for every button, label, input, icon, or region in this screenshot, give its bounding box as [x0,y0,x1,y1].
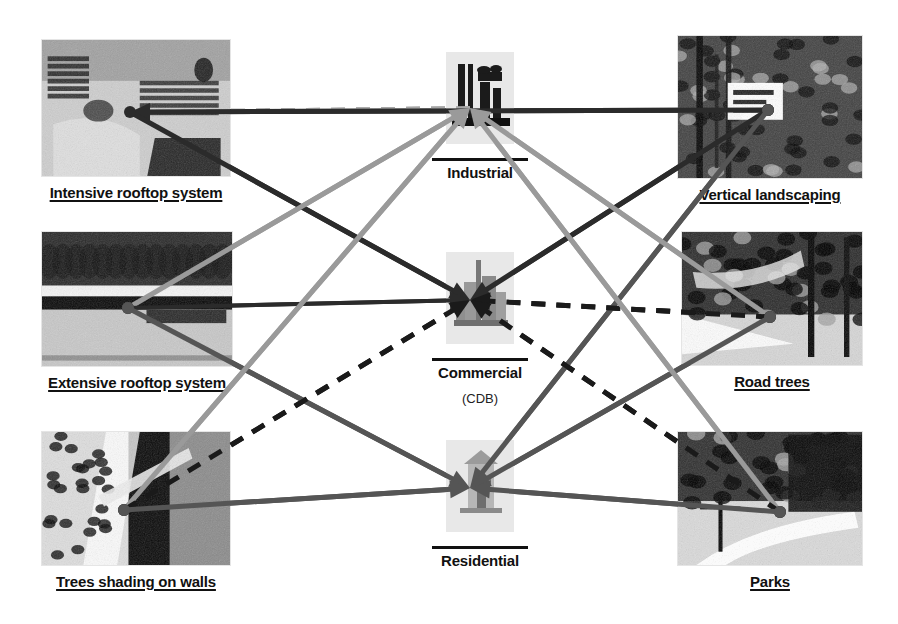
zone-divider [432,358,528,361]
zone-label-residential: Residential [420,552,540,569]
zone-node-commercial: Commercial(CDB) [420,248,540,406]
house-icon [438,436,522,544]
tree-shade-wall-photo [42,432,230,565]
node-label-parks: Parks [658,573,882,590]
node-label-trees-shading-walls: Trees shading on walls [22,573,250,590]
diagram-canvas: Intensive rooftop systemExtensive roofto… [0,0,898,624]
node-label-intensive-rooftop: Intensive rooftop system [22,184,250,201]
zone-divider [432,546,528,549]
factory-icon [438,48,522,156]
node-label-vertical-landscaping: Vertical landscaping [658,186,882,203]
zone-node-industrial: Industrial [420,48,540,181]
node-label-road-trees: Road trees [662,373,882,390]
park-path-photo [678,432,862,565]
zone-label-commercial: Commercial [420,364,540,381]
rooftop-garden-photo [42,40,230,176]
green-roof-photo [42,232,232,366]
zone-sublabel-commercial: (CDB) [420,391,540,406]
vertical-garden-photo [678,36,862,178]
zone-label-industrial: Industrial [420,164,540,181]
street-trees-photo [682,232,862,365]
node-label-extensive-rooftop: Extensive rooftop system [22,374,252,391]
city-skyline-icon [438,248,522,356]
zone-node-residential: Residential [420,436,540,569]
zone-divider [432,158,528,161]
